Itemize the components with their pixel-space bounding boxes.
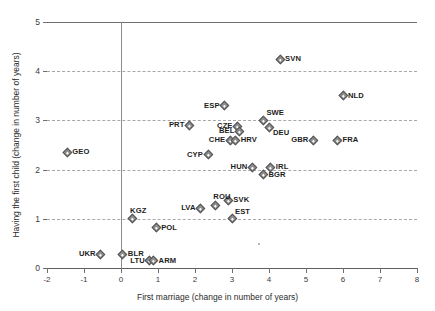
diamond-marker-icon bbox=[309, 135, 319, 145]
y-tick-label-3: 3 bbox=[26, 115, 40, 125]
point-label-svk: SVK bbox=[233, 195, 249, 204]
x-tick-mark-4 bbox=[269, 268, 270, 273]
y-tick-mark-2 bbox=[43, 170, 47, 171]
point-label-bgr: BGR bbox=[268, 170, 285, 179]
point-label-deu: DEU bbox=[273, 128, 289, 137]
diamond-marker-icon bbox=[338, 91, 348, 101]
point-label-nld: NLD bbox=[348, 91, 364, 100]
point-label-rou: ROU bbox=[213, 192, 230, 201]
x-tick-label-5: 5 bbox=[304, 275, 308, 284]
point-label-cyp: CYP bbox=[187, 150, 203, 159]
x-tick-mark-2 bbox=[195, 268, 196, 273]
diamond-marker-icon bbox=[203, 150, 213, 160]
x-tick-label--1: -1 bbox=[80, 275, 87, 284]
point-label-lva: LVA bbox=[181, 203, 195, 212]
x-tick-label--2: -2 bbox=[43, 275, 50, 284]
vertical-reference-line-zero bbox=[121, 22, 122, 268]
diamond-marker-icon bbox=[127, 214, 137, 224]
gridline-y-4 bbox=[47, 71, 417, 72]
y-tick-mark-0 bbox=[43, 268, 47, 269]
diamond-marker-icon bbox=[231, 135, 241, 145]
y-tick-label-2: 2 bbox=[26, 165, 40, 175]
x-tick-label-7: 7 bbox=[378, 275, 382, 284]
y-tick-mark-5 bbox=[43, 22, 47, 23]
x-tick-label-0: 0 bbox=[119, 275, 123, 284]
x-tick-label-2: 2 bbox=[193, 275, 197, 284]
point-label-che: CHE bbox=[209, 135, 225, 144]
point-label-swe: SWE bbox=[266, 108, 284, 117]
diamond-marker-icon bbox=[275, 54, 285, 64]
y-tick-mark-3 bbox=[43, 120, 47, 121]
point-label-geo: GEO bbox=[72, 147, 89, 156]
x-tick-mark--1 bbox=[84, 268, 85, 273]
diamond-marker-icon bbox=[185, 121, 195, 131]
x-tick-label-1: 1 bbox=[156, 275, 160, 284]
point-label-arm: ARM bbox=[159, 256, 177, 265]
y-axis-top-line bbox=[47, 22, 417, 23]
x-tick-mark-7 bbox=[380, 268, 381, 273]
stray-speck bbox=[258, 243, 260, 245]
diamond-marker-icon bbox=[259, 170, 269, 180]
diamond-marker-icon bbox=[211, 200, 221, 210]
x-tick-label-4: 4 bbox=[267, 275, 271, 284]
x-tick-mark-5 bbox=[306, 268, 307, 273]
diamond-marker-icon bbox=[96, 249, 106, 259]
y-tick-label-1: 1 bbox=[26, 214, 40, 224]
point-label-prt: PRT bbox=[169, 120, 185, 129]
plot-area: SVNNLDESPSWEPRTCZEDEUBELGBRFRACHEHRVGEOC… bbox=[47, 22, 417, 268]
x-tick-mark-3 bbox=[232, 268, 233, 273]
point-label-esp: ESP bbox=[204, 101, 220, 110]
point-label-est: EST bbox=[235, 207, 250, 216]
point-label-pol: POL bbox=[161, 223, 177, 232]
point-label-hun: HUN bbox=[231, 162, 248, 171]
x-axis-label: First marriage (change in number of year… bbox=[0, 292, 435, 302]
point-label-svn: SVN bbox=[285, 54, 301, 63]
diamond-marker-icon bbox=[118, 249, 128, 259]
y-axis-label: Having the first child (change in number… bbox=[11, 25, 21, 265]
x-tick-label-3: 3 bbox=[230, 275, 234, 284]
x-tick-mark-1 bbox=[158, 268, 159, 273]
diamond-marker-icon bbox=[333, 135, 343, 145]
x-tick-label-6: 6 bbox=[341, 275, 345, 284]
x-tick-mark-8 bbox=[417, 268, 418, 273]
point-label-ukr: UKR bbox=[79, 249, 96, 258]
diamond-marker-icon bbox=[220, 101, 230, 111]
x-tick-mark--2 bbox=[47, 268, 48, 273]
x-tick-mark-0 bbox=[121, 268, 122, 273]
point-label-kgz: KGZ bbox=[130, 206, 146, 215]
point-label-hrv: HRV bbox=[241, 135, 257, 144]
point-label-bel: BEL bbox=[219, 126, 235, 135]
y-tick-mark-1 bbox=[43, 219, 47, 220]
y-tick-mark-4 bbox=[43, 71, 47, 72]
point-label-gbr: GBR bbox=[291, 135, 308, 144]
y-tick-label-0: 0 bbox=[26, 263, 40, 273]
x-tick-label-8: 8 bbox=[415, 275, 419, 284]
y-tick-label-5: 5 bbox=[26, 17, 40, 27]
point-label-ltu: LTU bbox=[130, 256, 145, 265]
point-label-fra: FRA bbox=[342, 135, 358, 144]
y-tick-label-4: 4 bbox=[26, 66, 40, 76]
diamond-marker-icon bbox=[196, 203, 206, 213]
x-tick-mark-6 bbox=[343, 268, 344, 273]
diamond-marker-icon bbox=[151, 223, 161, 233]
scatter-plot-figure: SVNNLDESPSWEPRTCZEDEUBELGBRFRACHEHRVGEOC… bbox=[0, 0, 435, 311]
diamond-marker-icon bbox=[63, 148, 73, 158]
